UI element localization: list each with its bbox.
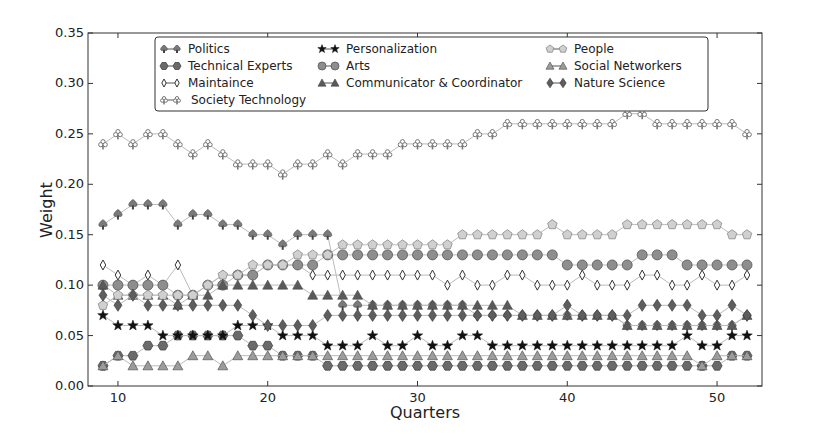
y-tick-label: 0.25: [55, 126, 84, 141]
x-tick-label: 40: [559, 390, 576, 405]
x-tick-label: 10: [110, 390, 127, 405]
legend-label: Society Technology: [191, 93, 306, 107]
legend-label: Technical Experts: [187, 59, 293, 73]
legend-item: Communicator & Coordinator: [318, 76, 522, 90]
legend-label: Personalization: [346, 42, 437, 56]
y-tick-label: 0.15: [55, 227, 84, 242]
legend-label: Politics: [188, 42, 230, 56]
y-tick-label: 0.30: [55, 75, 84, 90]
x-axis-label: Quarters: [390, 403, 460, 422]
legend-label: People: [574, 42, 614, 56]
y-tick-label: 0.20: [55, 176, 84, 191]
legend-label: Nature Science: [574, 76, 665, 90]
y-tick-label: 0.10: [55, 277, 84, 292]
y-axis-label: Weight: [37, 182, 56, 238]
y-tick-label: 0.05: [55, 328, 84, 343]
chart-canvas: 0.000.050.100.150.200.250.300.3510203040…: [0, 0, 817, 437]
legend-label: Arts: [346, 59, 370, 73]
x-tick-label: 20: [259, 390, 276, 405]
chart: 0.000.050.100.150.200.250.300.3510203040…: [0, 0, 817, 437]
y-tick-label: 0.00: [55, 378, 84, 393]
legend: PoliticsTechnical ExpertsMaintainceSocie…: [155, 37, 708, 111]
legend-label: Maintaince: [188, 76, 254, 90]
y-tick-label: 0.35: [55, 25, 84, 40]
legend-label: Social Networkers: [574, 59, 682, 73]
legend-label: Communicator & Coordinator: [346, 76, 522, 90]
x-tick-label: 50: [709, 390, 726, 405]
